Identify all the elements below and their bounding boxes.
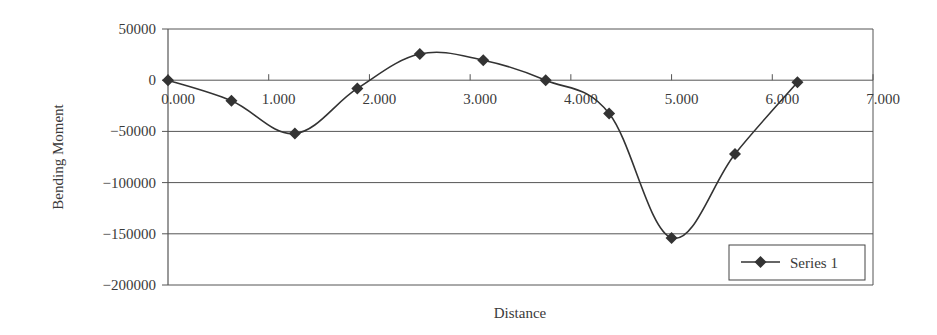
data-point-marker: [414, 48, 426, 60]
x-tick-label: 4.000: [564, 91, 598, 107]
data-point-marker: [351, 82, 363, 94]
chart: 500000−50000−100000−150000−200000 0.0001…: [0, 0, 937, 335]
data-point-marker: [540, 74, 552, 86]
y-axis-title: Bending Moment: [50, 103, 66, 209]
y-tick-labels: 500000−50000−100000−150000−200000: [103, 21, 156, 293]
data-point-marker: [162, 74, 174, 86]
y-tick-label: −150000: [103, 226, 156, 242]
y-tick-label: −200000: [103, 277, 156, 293]
legend-entry-series-1: Series 1: [790, 255, 838, 271]
x-tick-labels: 0.0001.0002.0003.0004.0005.0006.0007.000: [161, 91, 900, 107]
data-point-marker: [225, 95, 237, 107]
x-tick-label: 5.000: [665, 91, 699, 107]
y-tick-label: 0: [149, 72, 157, 88]
data-point-marker: [289, 127, 301, 139]
x-tick-label: 1.000: [262, 91, 296, 107]
x-tick-label: 0.000: [161, 91, 195, 107]
x-tick-label: 2.000: [363, 91, 397, 107]
y-tick-label: 50000: [119, 21, 157, 37]
data-point-marker: [477, 54, 489, 66]
series-1-markers: [162, 48, 803, 244]
y-tick-label: −100000: [103, 175, 156, 191]
legend: Series 1: [729, 245, 865, 280]
x-tick-label: 7.000: [866, 91, 900, 107]
y-tick-label: −50000: [110, 123, 156, 139]
x-tick-label: 3.000: [463, 91, 497, 107]
x-axis-title: Distance: [494, 305, 547, 321]
